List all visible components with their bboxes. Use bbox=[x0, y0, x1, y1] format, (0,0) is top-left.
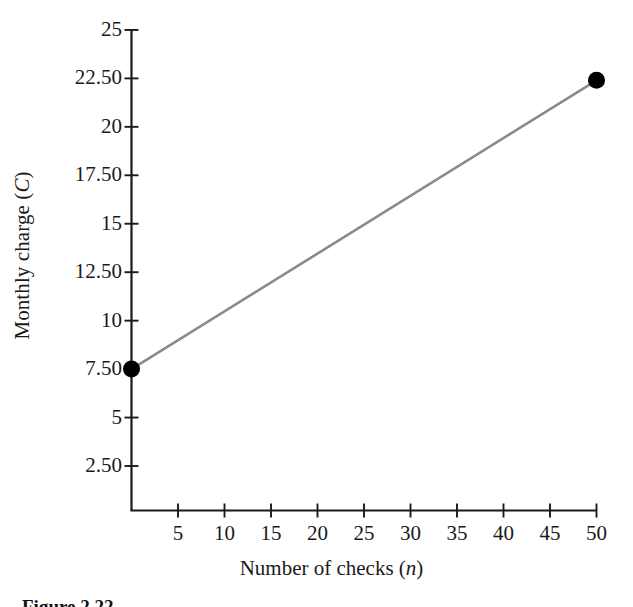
x-axis-title-suffix: ) bbox=[416, 556, 423, 580]
data-point-marker bbox=[123, 361, 140, 378]
plot-area bbox=[0, 0, 633, 607]
data-point-marker bbox=[588, 72, 605, 89]
x-tick-label: 5 bbox=[173, 523, 184, 544]
axis-lines bbox=[130, 30, 596, 511]
x-tick-label: 45 bbox=[540, 523, 561, 544]
x-axis-title-text: Number of checks (n) bbox=[240, 556, 424, 581]
x-tick-label: 50 bbox=[586, 523, 607, 544]
x-axis-title-prefix: Number of checks ( bbox=[240, 556, 406, 580]
x-tick-label: 25 bbox=[354, 523, 375, 544]
x-tick-label: 30 bbox=[400, 523, 421, 544]
x-axis-title: Number of checks (n) bbox=[0, 556, 633, 581]
x-tick-label-group: 5101520253035404550 bbox=[0, 523, 633, 551]
x-tick-label: 15 bbox=[261, 523, 282, 544]
x-tick-label: 20 bbox=[307, 523, 328, 544]
data-series-line bbox=[132, 80, 597, 369]
x-tick-label: 35 bbox=[447, 523, 468, 544]
series-line bbox=[132, 80, 597, 369]
x-tick-label: 10 bbox=[214, 523, 235, 544]
figure-caption: Figure 2.22 bbox=[22, 596, 113, 607]
x-tick-label: 40 bbox=[493, 523, 514, 544]
x-axis-title-variable: n bbox=[406, 556, 417, 580]
figure-container: Monthly charge (C) 2.5057.501012.501517.… bbox=[0, 0, 633, 607]
